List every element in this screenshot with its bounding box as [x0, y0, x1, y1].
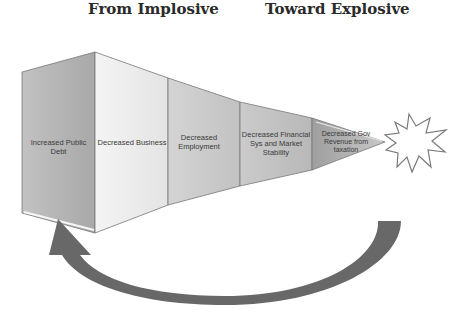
label-decreased-employment: Decreased Employment: [173, 133, 225, 151]
cycle-arrow-icon: [49, 219, 401, 305]
label-decreased-business: Decreased Business: [96, 138, 168, 147]
label-increased-public-debt: Increased Public Debt: [22, 138, 95, 156]
starburst-icon: [385, 114, 446, 172]
label-decreased-financial-stability: Decreased Financial Sys and Market Stabi…: [240, 130, 312, 157]
label-decreased-gov-revenue: Decreased Gov Revenue from taxation: [316, 130, 376, 154]
funnel-diagram: [0, 0, 462, 312]
